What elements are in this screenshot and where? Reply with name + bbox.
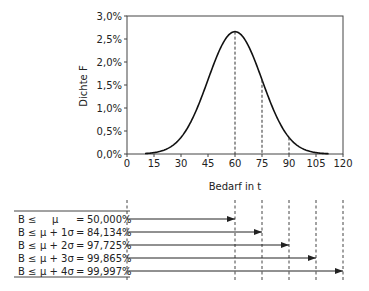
x-axis-title: Bedarf in t [209, 181, 262, 192]
table-row: B ≤μ + 2σ=97,725% [18, 240, 132, 251]
x-tick-label: 30 [175, 158, 188, 169]
density-curve [145, 32, 329, 154]
table-row: B ≤μ + 3σ=99,865% [18, 253, 132, 264]
row-equals: = [76, 253, 84, 264]
y-tick-label: 2,0% [97, 57, 122, 68]
row-lhs: B ≤ [18, 214, 36, 225]
row-expression: μ + 1σ [40, 227, 74, 238]
x-tick-label: 90 [283, 158, 296, 169]
y-tick-label: 1,0% [97, 103, 122, 114]
normal-distribution-chart: 0,0%0,5%1,0%1,5%2,0%2,5%3,0% 01530456075… [0, 0, 369, 291]
y-tick-label: 0,0% [97, 149, 122, 160]
x-tick-label: 0 [124, 158, 130, 169]
row-value: 99,865% [87, 253, 132, 264]
x-axis: 0153045607590105120 [124, 154, 353, 169]
x-tick-label: 75 [256, 158, 269, 169]
row-value: 97,725% [87, 240, 132, 251]
y-tick-label: 0,5% [97, 126, 122, 137]
row-lhs: B ≤ [18, 266, 36, 277]
annotation-dashed-lines [127, 200, 343, 280]
row-equals: = [76, 227, 84, 238]
row-value: 50,000% [87, 214, 132, 225]
row-lhs: B ≤ [18, 240, 36, 251]
y-tick-label: 3,0% [97, 11, 122, 22]
y-axis: 0,0%0,5%1,0%1,5%2,0%2,5%3,0% [97, 11, 127, 160]
y-tick-label: 1,5% [97, 80, 122, 91]
x-tick-label: 120 [333, 158, 352, 169]
table-row: B ≤μ + 1σ=84,134% [18, 227, 132, 238]
row-equals: = [76, 240, 84, 251]
row-expression: μ + 3σ [40, 253, 74, 264]
row-expression: μ + 2σ [40, 240, 74, 251]
row-lhs: B ≤ [18, 253, 36, 264]
row-equals: = [76, 266, 84, 277]
table-row: B ≤μ + 4σ=99,997% [18, 266, 132, 277]
row-equals: = [76, 214, 84, 225]
row-value: 99,997% [87, 266, 132, 277]
reference-lines [235, 32, 289, 154]
x-tick-label: 60 [229, 158, 242, 169]
y-axis-title: Dichte F [78, 65, 89, 107]
x-tick-label: 105 [306, 158, 325, 169]
y-tick-label: 2,5% [97, 34, 122, 45]
row-lhs: B ≤ [18, 227, 36, 238]
table-row: B ≤μ=50,000% [18, 214, 132, 225]
row-expression: μ + 4σ [40, 266, 74, 277]
probability-table: B ≤μ=50,000%B ≤μ + 1σ=84,134%B ≤μ + 2σ=9… [14, 211, 132, 277]
density-curve-path [145, 32, 329, 154]
x-tick-label: 45 [202, 158, 215, 169]
row-expression: μ [52, 214, 59, 225]
row-value: 84,134% [87, 227, 132, 238]
x-tick-label: 15 [148, 158, 161, 169]
